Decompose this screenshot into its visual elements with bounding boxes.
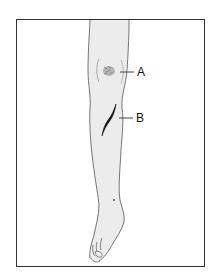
annotation-label-a: A [137,66,145,78]
leg-lesion-figure: A B [0,0,221,276]
annotation-label-b: B [136,112,144,124]
ankle-mark [113,199,115,201]
leg-illustration [0,0,221,276]
